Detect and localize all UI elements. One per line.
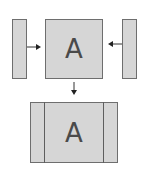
arrow-left-icon (108, 41, 122, 47)
arrow-down-icon (71, 82, 77, 95)
arrow-right-icon (27, 44, 41, 50)
arrows-layer (0, 0, 149, 183)
